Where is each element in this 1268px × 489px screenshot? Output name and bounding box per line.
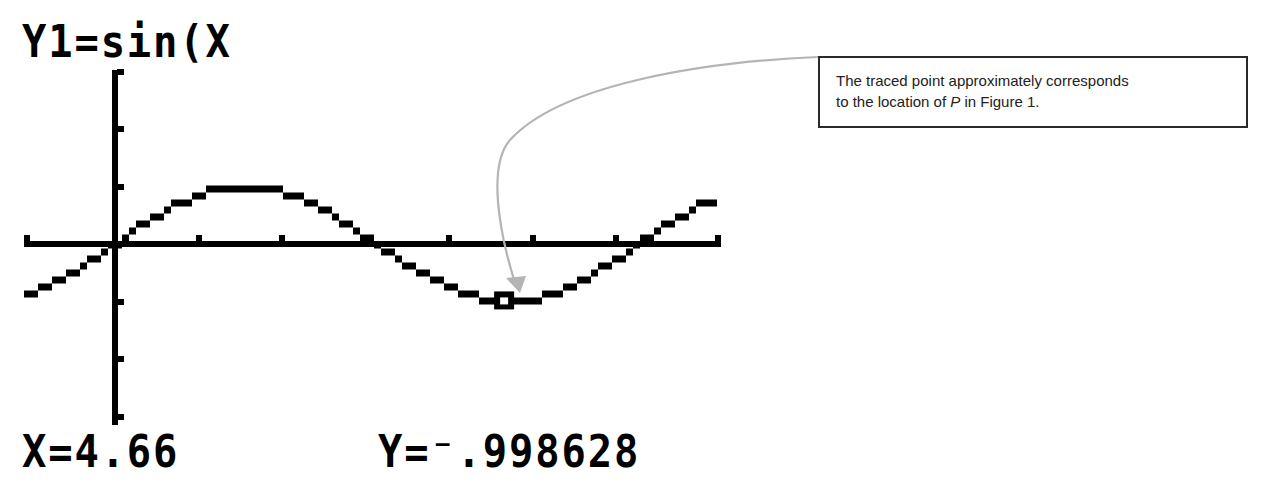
curve-pixel <box>367 235 374 242</box>
curve-pixel <box>31 291 38 298</box>
curve-pixel <box>577 277 584 284</box>
curve-pixel <box>297 193 304 200</box>
annotation-line-2-suffix: in Figure 1. <box>960 93 1039 110</box>
curve-pixel <box>668 221 675 228</box>
point-label-p: P <box>950 93 960 110</box>
curve-pixel <box>346 221 353 228</box>
y-tick <box>117 299 124 305</box>
trace-marker-inner <box>500 297 508 304</box>
callout-arrow <box>497 57 818 293</box>
y-tick <box>117 69 124 75</box>
curve-pixel <box>150 214 157 221</box>
curve-pixel <box>605 263 612 270</box>
curve-pixel <box>353 228 360 235</box>
curve-pixel <box>178 200 185 207</box>
curve-pixel <box>654 228 661 235</box>
curve-pixel <box>143 221 150 228</box>
curve-pixel <box>710 200 717 207</box>
curve-pixel <box>360 235 367 242</box>
curve-pixel <box>234 186 241 193</box>
curve-pixel <box>59 277 66 284</box>
annotation-callout-box: The traced point approximately correspon… <box>818 56 1248 128</box>
curve-pixel <box>647 235 654 242</box>
curve-pixel <box>52 277 59 284</box>
curve-pixel <box>430 277 437 284</box>
curve-pixel <box>437 277 444 284</box>
curve-pixel <box>66 270 73 277</box>
curve-pixel <box>192 193 199 200</box>
curve-pixel <box>276 186 283 193</box>
x-tick <box>279 235 285 242</box>
curve-pixel <box>94 256 101 263</box>
y-coordinate-readout: Y=⁻.998628 <box>378 430 640 474</box>
curve-pixel <box>311 200 318 207</box>
x-tick <box>530 235 536 242</box>
annotation-line-1: The traced point approximately correspon… <box>836 70 1246 91</box>
x-coordinate-readout: X=4.66 <box>22 430 179 474</box>
curve-pixel <box>402 263 409 270</box>
y-tick <box>117 414 124 420</box>
curve-pixel <box>479 298 486 305</box>
curve-pixel <box>248 186 255 193</box>
curve-pixel <box>388 249 395 256</box>
arrow-head-icon <box>506 276 526 293</box>
curve-pixel <box>465 291 472 298</box>
curve-pixel <box>381 249 388 256</box>
curve-pixel <box>213 186 220 193</box>
curve-pixel <box>395 256 402 263</box>
curve-pixel <box>185 200 192 207</box>
curve-pixel <box>633 242 640 249</box>
curve-pixel <box>472 291 479 298</box>
curve-pixel <box>675 214 682 221</box>
curve-pixel <box>171 200 178 207</box>
curve-pixel <box>122 235 129 242</box>
curve-pixel <box>339 221 346 228</box>
curve-pixel <box>626 249 633 256</box>
curve-pixel <box>486 298 493 305</box>
curve-pixel <box>45 284 52 291</box>
curve-pixel <box>549 291 556 298</box>
x-tick <box>613 235 619 242</box>
curve-pixel <box>129 228 136 235</box>
y-tick <box>117 356 124 362</box>
curve-pixel <box>115 242 122 249</box>
curve-pixel <box>591 270 598 277</box>
curve-pixel <box>157 214 164 221</box>
curve-pixel <box>332 214 339 221</box>
curve-pixel <box>619 256 626 263</box>
curve-pixel <box>689 207 696 214</box>
curve-pixel <box>262 186 269 193</box>
curve-pixel <box>318 207 325 214</box>
x-tick <box>196 235 202 242</box>
curve-pixel <box>661 221 668 228</box>
curve-pixel <box>325 207 332 214</box>
curve-pixel <box>696 200 703 207</box>
curve-pixel <box>241 186 248 193</box>
curve-pixel <box>598 263 605 270</box>
curve-pixel <box>164 207 171 214</box>
curve-pixel <box>101 249 108 256</box>
curve-pixel <box>423 270 430 277</box>
curve-pixel <box>374 242 381 249</box>
curve-pixel <box>535 298 542 305</box>
curve-pixel <box>570 284 577 291</box>
curve-pixel <box>255 186 262 193</box>
curve-pixel <box>528 298 535 305</box>
curve-pixel <box>563 284 570 291</box>
x-tick <box>446 235 452 242</box>
x-axis-ticks <box>196 235 619 242</box>
curve-pixel <box>542 291 549 298</box>
curve-pixel <box>283 193 290 200</box>
annotation-line-2-prefix: to the location of <box>836 93 950 110</box>
curve-pixel <box>199 193 206 200</box>
curve-pixel <box>206 186 213 193</box>
curve-pixel <box>458 291 465 298</box>
curve-pixel <box>444 284 451 291</box>
x-axis-right-cap <box>715 235 721 243</box>
curve-pixel <box>269 186 276 193</box>
curve-pixel <box>136 221 143 228</box>
curve-pixel <box>227 186 234 193</box>
y-tick <box>117 184 124 190</box>
curve-pixel <box>87 256 94 263</box>
curve-pixel <box>220 186 227 193</box>
